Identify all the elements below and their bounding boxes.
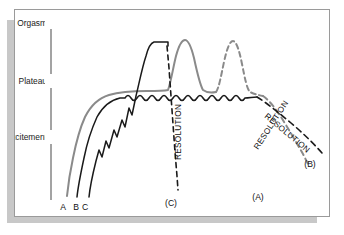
curve-start-label-c: C: [82, 202, 88, 212]
figure-panel: Orgasm Plateau Excitement: [14, 9, 330, 217]
resolution-label-c: RESOLUTION: [174, 104, 183, 160]
curve-start-label-a: A: [60, 202, 66, 212]
curve-start-label-b: B: [73, 202, 79, 212]
curve-c: [89, 42, 178, 197]
axis-label-plateau: Plateau: [19, 76, 48, 86]
axis-label-orgasm: Orgasm: [17, 18, 47, 28]
curve-label-b: (B): [304, 159, 316, 169]
axis-label-excitement: Excitement: [15, 132, 48, 142]
axis-label-mask-orgasm: [45, 15, 59, 29]
curve-a-solid: [67, 40, 216, 196]
response-cycle-chart: Orgasm Plateau Excitement: [15, 10, 329, 216]
curve-a-dashed-peak: [216, 41, 263, 96]
curve-label-a: (A): [252, 192, 264, 202]
curve-c-solid: [89, 42, 168, 197]
figure-root: Orgasm Plateau Excitement: [0, 0, 344, 235]
axis-label-mask-plateau: [45, 74, 59, 88]
axis-label-mask-excitement: [45, 130, 59, 144]
curve-label-c: (C): [165, 198, 177, 208]
